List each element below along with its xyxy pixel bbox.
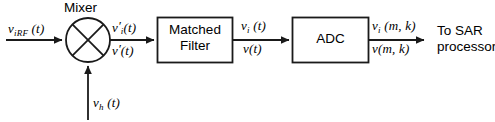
matched-filter-label-line2: Filter <box>158 38 233 54</box>
label-filter-out-q: v(t) <box>243 42 262 56</box>
label-rf-input: viRF (t) <box>8 22 44 38</box>
block-diagram: viRF (t) Mixer v′i(t) v′(t) vh (t) Match… <box>0 0 495 122</box>
label-adc-out-i: vi (m, k) <box>372 19 416 35</box>
label-mixer-out-i: v′i(t) <box>112 19 136 37</box>
matched-filter-label: Matched Filter <box>158 22 233 54</box>
mixer-out-i-arg: (t) <box>124 20 137 35</box>
rf-input-sub: iRF <box>14 28 28 38</box>
label-lo-input: vh (t) <box>93 96 120 112</box>
adc-out-i-arg: (m, k) <box>384 18 416 33</box>
label-mixer-out-q: v′(t) <box>112 42 134 57</box>
adc-label-line1: ADC <box>293 31 369 47</box>
adc-label: ADC <box>293 31 369 47</box>
filter-out-q-arg: (t) <box>249 41 262 56</box>
filter-out-i-sub: i <box>247 25 250 35</box>
mixer-out-q-arg: (t) <box>121 43 134 58</box>
destination-label-line1: To SAR <box>437 23 495 39</box>
filter-out-i-arg: (t) <box>253 18 266 33</box>
lo-input-sub: h <box>99 102 104 112</box>
adc-out-i-sub: i <box>378 25 381 35</box>
mixer-title: Mixer <box>64 0 97 15</box>
lo-input-arg: (t) <box>107 95 120 110</box>
destination-label: To SAR processor <box>437 23 495 55</box>
label-filter-out-i: vi (t) <box>241 19 266 35</box>
destination-label-line2: processor <box>437 39 495 55</box>
adc-out-q-arg: (m, k) <box>378 41 410 56</box>
rf-input-arg: (t) <box>32 21 45 36</box>
label-adc-out-q: v(m, k) <box>372 42 410 56</box>
matched-filter-label-line1: Matched <box>158 22 233 38</box>
